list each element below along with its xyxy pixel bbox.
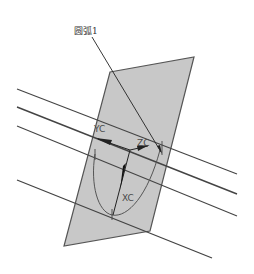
zc-label: ZC — [137, 139, 149, 148]
xc-label: XC — [122, 194, 134, 203]
yc-label: YC — [94, 125, 105, 134]
diagram-canvas — [0, 0, 254, 274]
callout-label: 圆弧1 — [74, 27, 98, 36]
